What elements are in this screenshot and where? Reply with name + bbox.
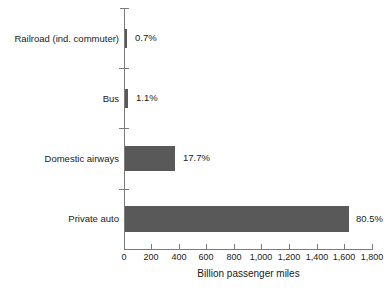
bar-chart: 0 200 400 600 800 1,000 1,200 1,400 1,60… <box>0 0 387 290</box>
x-axis-tick-label: 1,400 <box>306 252 329 263</box>
category-label-railroad: Railroad (ind. commuter) <box>0 33 119 45</box>
x-axis-tick <box>206 244 207 250</box>
bar-value-bus: 1.1% <box>136 92 158 104</box>
bar-railroad <box>125 29 127 48</box>
x-axis-tick <box>124 244 125 250</box>
x-axis-tick <box>151 244 152 250</box>
x-axis-tick <box>179 244 180 250</box>
category-label-bus: Bus <box>0 93 119 105</box>
x-axis-tick-label: 1,200 <box>278 252 301 263</box>
x-axis-tick-label: 1,600 <box>333 252 356 263</box>
x-axis-tick-label: 600 <box>198 252 213 263</box>
bar-bus <box>125 89 128 108</box>
x-axis-tick-label: 0 <box>121 252 126 263</box>
x-axis-tick <box>344 244 345 250</box>
x-axis-tick-label: 400 <box>171 252 186 263</box>
bar-private-auto <box>125 206 349 232</box>
x-axis-line <box>124 249 373 250</box>
x-axis-tick-label: 800 <box>226 252 241 263</box>
x-axis-tick <box>372 244 373 250</box>
bar-value-private-auto: 80.5% <box>356 213 383 225</box>
y-axis-tick <box>119 68 129 69</box>
y-axis-tick <box>119 189 129 190</box>
x-axis-tick-label: 200 <box>143 252 158 263</box>
bar-value-domestic-airways: 17.7% <box>183 152 210 164</box>
x-axis-tick <box>289 244 290 250</box>
x-axis-tick <box>317 244 318 250</box>
x-axis-title: Billion passenger miles <box>124 267 373 280</box>
bar-value-railroad: 0.7% <box>135 32 157 44</box>
x-axis-tick-label: 1,800 <box>361 252 384 263</box>
category-label-domestic-airways: Domestic airways <box>0 153 119 165</box>
x-axis-tick-label: 1,000 <box>250 252 273 263</box>
bar-domestic-airways <box>125 146 175 171</box>
y-axis-tick <box>119 128 129 129</box>
category-label-private-auto: Private auto <box>0 213 119 225</box>
x-axis-tick <box>261 244 262 250</box>
x-axis-tick <box>234 244 235 250</box>
